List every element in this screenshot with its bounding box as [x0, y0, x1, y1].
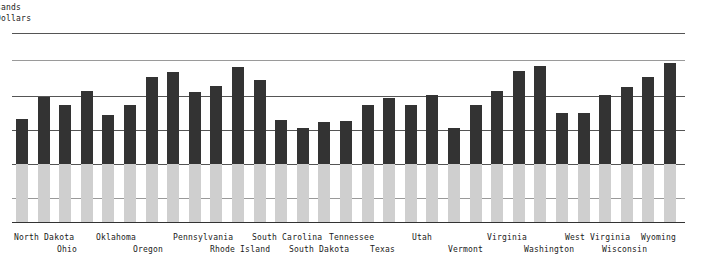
bar-segment-lower: [59, 164, 71, 223]
bar-segment-upper: [38, 97, 50, 164]
bar-segment-upper: [297, 128, 309, 164]
bar-segment-lower: [38, 164, 50, 223]
bar-segment-upper: [124, 105, 136, 164]
bar: [59, 25, 71, 223]
bar: [621, 25, 633, 223]
bar-segment-lower: [254, 164, 266, 223]
bar: [491, 25, 503, 223]
bar-segment-lower: [102, 164, 114, 223]
bar: [81, 25, 93, 223]
y-axis-caption-line-2: f Dollars: [0, 13, 31, 24]
bar: [426, 25, 438, 223]
bar-segment-upper: [362, 105, 374, 164]
x-axis-label: Texas: [370, 245, 395, 255]
x-axis-label: South Carolina: [252, 233, 322, 243]
bar-segment-lower: [210, 164, 222, 223]
bar-segment-upper: [664, 63, 676, 164]
bar-segment-lower: [513, 164, 525, 223]
x-axis-category-labels: North DakotaOhioOklahomaOregonPennsylvan…: [0, 223, 717, 265]
x-axis-label: Virginia: [487, 233, 527, 243]
bar-segment-lower: [362, 164, 374, 223]
bar-segment-lower: [534, 164, 546, 223]
x-axis-label: South Dakota: [289, 245, 349, 255]
bar: [362, 25, 374, 223]
bar-segment-lower: [16, 164, 28, 223]
bar-segment-upper: [599, 95, 611, 164]
bar: [642, 25, 654, 223]
bar-segment-lower: [146, 164, 158, 223]
bar-segment-upper: [254, 80, 266, 164]
x-axis-label: Utah: [412, 233, 432, 243]
bar-segment-lower: [81, 164, 93, 223]
x-axis-label: West Virginia: [565, 233, 630, 243]
bar-segment-upper: [16, 119, 28, 164]
x-axis-label: North Dakota: [14, 233, 74, 243]
x-axis-label: Wyoming: [641, 233, 676, 243]
bar-segment-upper: [189, 92, 201, 164]
bar-segment-upper: [232, 67, 244, 164]
bar: [38, 25, 50, 223]
bar: [556, 25, 568, 223]
bar-segment-upper: [426, 95, 438, 164]
bar-segment-upper: [167, 72, 179, 164]
bar: [578, 25, 590, 223]
bar: [340, 25, 352, 223]
bar-segment-upper: [621, 87, 633, 164]
bar-segment-lower: [318, 164, 330, 223]
bar: [318, 25, 330, 223]
bar-segment-lower: [448, 164, 460, 223]
bar: [16, 25, 28, 223]
x-axis-label: Tennessee: [329, 233, 374, 243]
bar-segment-lower: [232, 164, 244, 223]
bar-segment-upper: [534, 66, 546, 164]
bar-segment-upper: [448, 128, 460, 164]
x-axis-label: Wisconsin: [602, 245, 647, 255]
x-axis-label: Washington: [524, 245, 574, 255]
x-axis-label: Vermont: [448, 245, 483, 255]
bar: [275, 25, 287, 223]
bar: [448, 25, 460, 223]
bar: [470, 25, 482, 223]
bar: [599, 25, 611, 223]
bar: [534, 25, 546, 223]
bar: [189, 25, 201, 223]
bar-segment-upper: [59, 105, 71, 164]
bar-segment-lower: [297, 164, 309, 223]
bar-segment-lower: [470, 164, 482, 223]
bar: [232, 25, 244, 223]
bar: [124, 25, 136, 223]
bar-segment-lower: [405, 164, 417, 223]
bar-chart: ousands f Dollars 70605040302010 North D…: [0, 0, 717, 265]
bar-segment-lower: [664, 164, 676, 223]
bar-segment-upper: [405, 105, 417, 164]
bar-segment-lower: [578, 164, 590, 223]
bar-segment-upper: [491, 91, 503, 164]
bar-segment-upper: [513, 71, 525, 164]
bar: [167, 25, 179, 223]
bar: [513, 25, 525, 223]
bar-segment-lower: [426, 164, 438, 223]
bar-segment-lower: [340, 164, 352, 223]
bar: [102, 25, 114, 223]
y-axis-caption: ousands f Dollars: [0, 2, 31, 24]
bar-segment-upper: [275, 120, 287, 164]
bar-segment-lower: [556, 164, 568, 223]
y-axis-caption-line-1: ousands: [0, 2, 31, 13]
bar-segment-upper: [210, 86, 222, 164]
bar-segment-lower: [189, 164, 201, 223]
bar-segment-upper: [102, 115, 114, 164]
bar-segment-lower: [599, 164, 611, 223]
bar-segment-upper: [556, 113, 568, 164]
bar-segment-lower: [124, 164, 136, 223]
bar-segment-upper: [81, 91, 93, 164]
bar-segment-lower: [491, 164, 503, 223]
bar-segment-lower: [383, 164, 395, 223]
bar-segment-upper: [578, 113, 590, 164]
plot-area: 70605040302010: [0, 25, 717, 223]
bar-segment-upper: [318, 122, 330, 164]
bar-series: [0, 25, 717, 223]
x-axis-label: Pennsylvania: [173, 233, 233, 243]
bar-segment-upper: [470, 105, 482, 164]
bar: [254, 25, 266, 223]
bar: [210, 25, 222, 223]
